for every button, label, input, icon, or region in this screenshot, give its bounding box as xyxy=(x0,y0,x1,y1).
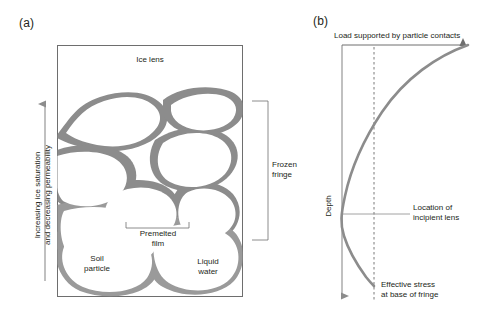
load-depth-curve xyxy=(341,45,468,286)
incipient-lens-label: Location of incipient lens xyxy=(413,203,483,223)
load-axis-label: Load supported by particle contacts xyxy=(334,31,483,41)
effective-stress-label: Effective stress at base of fringe xyxy=(381,280,471,300)
premelted-film-label: Premelted film xyxy=(128,229,188,249)
saturation-permeability-axis-label: Increasing ice saturation and decreasing… xyxy=(33,115,53,275)
frozen-fringe-label: Frozen fringe xyxy=(272,160,312,180)
figure-root: (a) (b) xyxy=(0,0,483,320)
soil-particle-label: Soil particle xyxy=(72,254,122,274)
frozen-fringe-bracket xyxy=(252,101,268,240)
ice-lens-label: Ice lens xyxy=(110,55,190,65)
depth-axis-label: Depth xyxy=(324,183,334,229)
liquid-water-label: Liquid water xyxy=(186,257,230,277)
